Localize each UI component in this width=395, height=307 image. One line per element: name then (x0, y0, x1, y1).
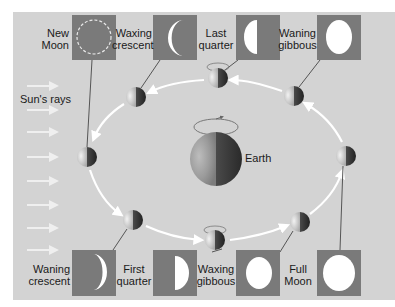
phase-box-waxing-crescent (153, 15, 197, 60)
label-line: Last (196, 27, 236, 39)
waxing-gibbous-icon (246, 257, 272, 289)
label-line: gibbous (278, 39, 317, 51)
label-line: gibbous (195, 275, 237, 287)
orbit-moon-waning-crescent (123, 210, 143, 230)
phase-box-new-moon (72, 15, 116, 60)
label-line: Moon (28, 39, 69, 51)
label-line: Waning (278, 27, 317, 39)
earth-label: Earth (245, 152, 285, 164)
moon-phases-diagram: New Moon Waxing crescent Last quarter Wa… (0, 0, 395, 307)
label-line: crescent (26, 275, 70, 287)
label-line: crescent (112, 39, 152, 51)
label-line: New (28, 27, 69, 39)
label-first-quarter: First quarter (114, 263, 154, 287)
phase-box-last-quarter (236, 15, 280, 60)
label-line: quarter (196, 39, 236, 51)
sun-rays-label: Sun's rays (20, 93, 80, 105)
phase-box-waxing-gibbous (236, 250, 280, 296)
orbit-moon-waxing-gibbous (290, 212, 310, 232)
label-line: Waxing (195, 263, 237, 275)
orbit-moon-waxing-crescent (126, 87, 146, 107)
label-new-moon: New Moon (28, 27, 69, 51)
phase-box-waning-crescent (72, 250, 116, 296)
orbit-moon-new (77, 147, 97, 167)
label-waxing-crescent: Waxing crescent (112, 27, 152, 51)
label-line: Full (281, 263, 315, 275)
label-last-quarter: Last quarter (196, 27, 236, 51)
phase-box-full-moon (317, 250, 361, 296)
phase-box-first-quarter (153, 250, 197, 296)
label-line: First (114, 263, 154, 275)
label-waning-crescent: Waning crescent (26, 263, 70, 287)
label-line: Moon (281, 275, 315, 287)
full-moon-icon (323, 255, 355, 291)
label-line: Waning (26, 263, 70, 275)
label-line: Waxing (112, 27, 152, 39)
label-waxing-gibbous: Waxing gibbous (195, 263, 237, 287)
orbit-moon-waning-gibbous (284, 86, 304, 106)
orbit-moon-full (336, 146, 356, 166)
label-full-moon: Full Moon (281, 263, 315, 287)
label-waning-gibbous: Waning gibbous (278, 27, 317, 51)
label-line: quarter (114, 275, 154, 287)
phase-box-waning-gibbous (317, 15, 361, 60)
waning-gibbous-icon (326, 20, 352, 54)
